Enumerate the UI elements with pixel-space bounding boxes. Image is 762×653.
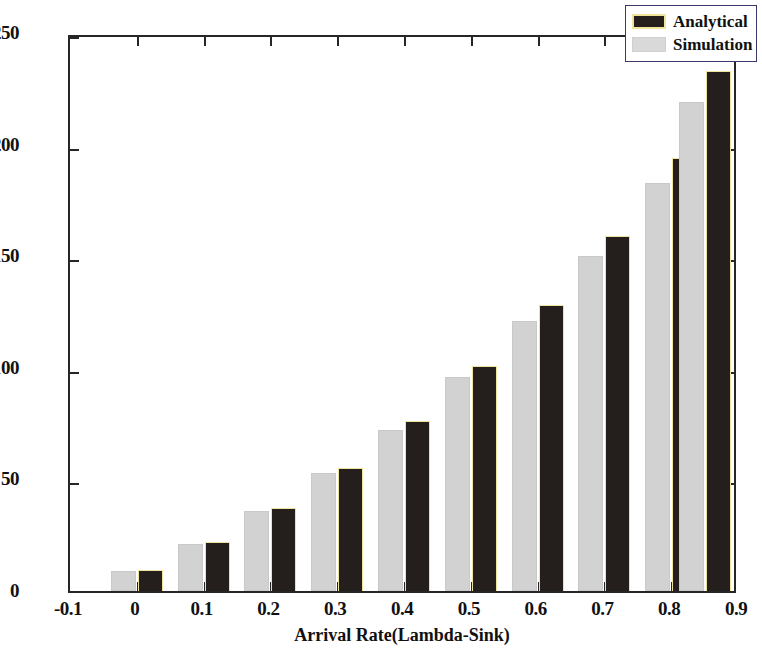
plot-frame bbox=[68, 35, 736, 593]
bar-simulation bbox=[111, 571, 136, 591]
bar-analytical bbox=[472, 366, 497, 591]
bar-analytical bbox=[138, 570, 163, 591]
x-axis-tick bbox=[337, 37, 339, 46]
y-axis-tick-label: 200 bbox=[0, 134, 19, 156]
bar-analytical bbox=[205, 542, 230, 591]
y-axis-tick bbox=[70, 260, 79, 262]
bar-analytical bbox=[405, 421, 430, 591]
bar-simulation bbox=[512, 321, 537, 591]
bar-analytical bbox=[271, 508, 296, 591]
y-axis-tick-label: 50 bbox=[0, 468, 19, 490]
x-axis-tick-label: 0.9 bbox=[701, 598, 762, 620]
legend-item-simulation: Simulation bbox=[632, 33, 750, 56]
bar-simulation bbox=[244, 511, 269, 591]
x-axis-tick-label: 0.1 bbox=[167, 598, 237, 620]
bar-analytical bbox=[605, 236, 630, 591]
chart-legend: Analytical Simulation bbox=[625, 5, 757, 62]
y-axis-tick-label: 100 bbox=[0, 357, 19, 379]
bar-simulation bbox=[378, 430, 403, 591]
x-axis-tick bbox=[538, 37, 540, 46]
y-axis-tick bbox=[70, 483, 79, 485]
x-axis-tick-label: 0.3 bbox=[300, 598, 370, 620]
legend-label-simulation: Simulation bbox=[673, 35, 752, 55]
y-axis-tick-label: 150 bbox=[0, 245, 19, 267]
x-axis-tick bbox=[270, 37, 272, 46]
x-axis-label: Arrival Rate(Lambda-Sink) bbox=[68, 625, 736, 646]
bar-simulation bbox=[578, 256, 603, 591]
x-axis-tick bbox=[604, 37, 606, 46]
x-axis-tick-label: 0.2 bbox=[233, 598, 303, 620]
bar-simulation bbox=[645, 183, 670, 591]
legend-swatch-analytical-icon bbox=[632, 14, 666, 29]
y-axis-tick bbox=[70, 37, 79, 39]
plot-area bbox=[70, 37, 734, 591]
x-axis-tick-label: -0.1 bbox=[33, 598, 103, 620]
bar-simulation bbox=[679, 102, 704, 591]
x-axis-tick-label: 0.6 bbox=[501, 598, 571, 620]
y-axis-tick bbox=[70, 149, 79, 151]
legend-item-analytical: Analytical bbox=[632, 10, 750, 33]
x-axis-tick bbox=[204, 37, 206, 46]
x-axis-tick-label: 0.8 bbox=[634, 598, 704, 620]
legend-label-analytical: Analytical bbox=[673, 12, 748, 32]
legend-swatch-simulation-icon bbox=[632, 37, 666, 52]
bar-analytical bbox=[338, 468, 363, 591]
chart-figure: 050100150200250 -0.100.10.20.30.40.50.60… bbox=[0, 0, 762, 653]
bar-simulation bbox=[445, 377, 470, 591]
bar-simulation bbox=[311, 473, 336, 591]
x-axis-tick bbox=[471, 37, 473, 46]
bar-analytical bbox=[706, 71, 731, 591]
bar-analytical bbox=[539, 305, 564, 591]
y-axis-tick bbox=[70, 372, 79, 374]
x-axis-tick-label: 0.7 bbox=[567, 598, 637, 620]
bar-simulation bbox=[178, 544, 203, 591]
x-axis-tick-label: 0 bbox=[100, 598, 170, 620]
x-axis-tick bbox=[137, 37, 139, 46]
x-axis-tick bbox=[404, 37, 406, 46]
y-axis-tick-label: 250 bbox=[0, 22, 19, 44]
y-axis-tick-label: 0 bbox=[0, 580, 19, 602]
x-axis-tick-label: 0.4 bbox=[367, 598, 437, 620]
x-axis-tick-label: 0.5 bbox=[434, 598, 504, 620]
